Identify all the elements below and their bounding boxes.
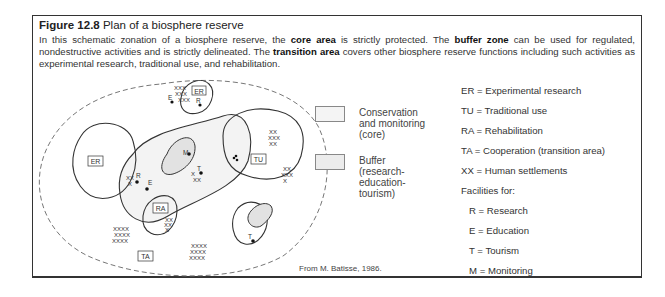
facility-e-top: E <box>168 94 174 104</box>
facility-label: R <box>136 172 141 179</box>
key-zone-tu: TU = Traditional use <box>461 101 605 121</box>
svg-text:XXXX: XXXX <box>112 238 128 244</box>
key-facility-r: R = Research <box>461 201 605 221</box>
settlement-bottom-mid: XXXXXXXXXXXX <box>189 243 207 261</box>
caption-buffer-term: buffer zone <box>455 34 509 45</box>
label-tu-text: TU <box>254 156 263 163</box>
label-er-top: ER <box>192 86 206 95</box>
caption-text: is strictly protected. The <box>336 34 455 45</box>
legend-label-core: Conservation and monitoring (core) <box>359 107 425 140</box>
buffer-zone <box>119 115 250 222</box>
label-er-left: ER <box>88 156 103 166</box>
label-ta-text: TA <box>141 253 150 260</box>
caption-transition-term: transition area <box>273 46 340 57</box>
er-left-zone <box>73 123 136 198</box>
svg-text:XX: XX <box>193 177 201 183</box>
legend-swatch-buffer <box>315 154 345 170</box>
key-zone-xx: XX = Human settlements <box>461 161 605 181</box>
settlement-tu-bottom: XXXXXX <box>281 166 293 184</box>
legend-label-buffer: Buffer (research- education- tourism) <box>359 155 406 199</box>
caption-text: In this schematic zonation of a biospher… <box>39 34 291 45</box>
key-facility-m: M = Monitoring <box>461 261 605 281</box>
svg-text:XXXX: XXXX <box>189 255 205 261</box>
svg-text:X: X <box>165 227 169 233</box>
facility-r-top: R <box>196 97 202 107</box>
facility-label: T <box>248 233 252 240</box>
key-facilities-heading: Facilities for: <box>461 181 605 201</box>
facility-label: E <box>148 179 153 186</box>
facility-label: T <box>197 165 201 172</box>
key-facility-t: T = Tourism <box>461 241 605 261</box>
label-ra: RA <box>153 203 168 213</box>
key-zone-er: ER = Experimental research <box>461 81 605 101</box>
facility-label: M <box>183 149 188 156</box>
label-er-top-text: ER <box>194 88 204 95</box>
settlement-bottom-left: XXXXXXXXXXXX <box>112 226 130 244</box>
svg-text:XXX: XXX <box>178 97 190 103</box>
caption-core-term: core area <box>291 34 336 45</box>
figure-number: Figure 12.8 <box>39 19 100 31</box>
figure-title: Figure 12.8 Plan of a biosphere reserve <box>39 19 244 31</box>
facility-label: R <box>196 97 201 104</box>
key-facility-e: E = Education <box>461 221 605 241</box>
svg-text:XX: XX <box>269 141 277 147</box>
figure-caption: In this schematic zonation of a biospher… <box>39 34 635 69</box>
settlement-tu-top: XXXXXXX <box>268 129 280 147</box>
settlement-top: XXXXXXXXX <box>174 85 190 103</box>
svg-text:X: X <box>283 178 287 184</box>
settlement-ra: XXXXX <box>164 217 173 233</box>
figure-frame: Figure 12.8 Plan of a biosphere reserve … <box>32 15 642 278</box>
label-ta: TA <box>138 251 153 261</box>
source-credit: From M. Batisse, 1986. <box>299 264 382 273</box>
key-zone-ta: TA = Cooperation (transition area) <box>461 141 605 161</box>
label-ra-text: RA <box>156 205 166 212</box>
label-tu: TU <box>251 154 266 164</box>
figure-title-text: Plan of a biosphere reserve <box>103 19 244 31</box>
svg-text:X: X <box>128 181 132 187</box>
key-list: ER = Experimental research TU = Traditio… <box>461 81 605 281</box>
label-er-left-text: ER <box>91 158 101 165</box>
key-zone-ra: RA = Rehabilitation <box>461 121 605 141</box>
facility-label: E <box>168 94 173 101</box>
legend-swatch-core <box>315 106 345 122</box>
